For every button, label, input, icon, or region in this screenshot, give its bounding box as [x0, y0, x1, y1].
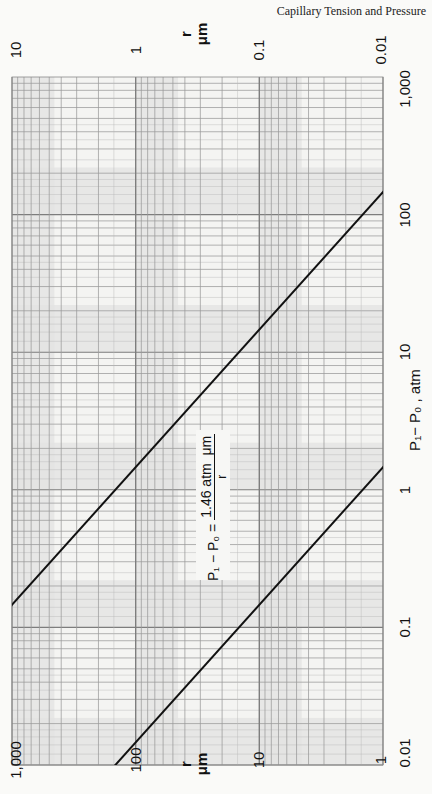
formula-numerator: 1.46 atm μm	[198, 434, 215, 520]
r-top-tick-label: 1	[127, 20, 145, 80]
r-bottom-tick-label: 1,000	[7, 730, 25, 790]
formula-denominator: r	[215, 475, 229, 479]
p-tick-label: 0.1	[396, 597, 414, 657]
top-r-label: r	[178, 14, 194, 54]
r-top-tick-label: 0.01	[372, 20, 390, 80]
bottom-um-label: μm	[194, 744, 210, 784]
bottom-r-axis-unit: r μm	[178, 744, 218, 784]
r-bottom-tick-label: 100	[127, 730, 145, 790]
decade-band-v	[12, 77, 54, 765]
r-bottom-tick-label: 10	[250, 730, 268, 790]
r-top-tick-label: 0.1	[250, 20, 268, 80]
decade-band-h	[12, 580, 383, 627]
formula-lhs: P₁ − P₀ =	[205, 524, 221, 581]
p-tick-label: 1,000	[396, 59, 414, 119]
r-bottom-tick-label: 1	[372, 730, 390, 790]
decade-band-v	[259, 77, 301, 765]
bottom-r-label: r	[178, 744, 194, 784]
formula-fraction: 1.46 atm μm r	[198, 434, 229, 520]
p-tick-label: 100	[396, 185, 414, 245]
formula: P₁ − P₀ = 1.46 atm μm r	[195, 431, 231, 581]
top-um-label: μm	[194, 14, 210, 54]
decade-band-h	[12, 167, 383, 214]
log-log-chart	[0, 0, 432, 794]
p-tick-label: 0.01	[396, 723, 414, 783]
decade-band-h	[12, 305, 383, 352]
top-r-axis-unit: r μm	[178, 14, 218, 54]
r-top-tick-label: 10	[7, 20, 25, 80]
decade-band-v	[136, 77, 178, 765]
p-tick-label: 10	[396, 322, 414, 382]
p-tick-label: 1	[396, 460, 414, 520]
